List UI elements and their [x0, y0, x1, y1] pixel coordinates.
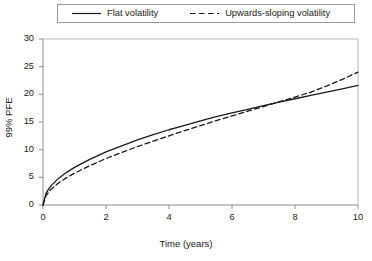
series-line-upwards-sloping-volatility [43, 72, 358, 205]
y-axis-title: 99% PFE [3, 88, 14, 148]
x-axis-title: Time (years) [0, 238, 372, 249]
x-tick-label-8: 8 [289, 213, 301, 222]
chart-figure: Flat volatility Upwards-sloping volatili… [0, 0, 372, 261]
x-tick-label-4: 4 [163, 213, 175, 222]
y-tick-label-25: 25 [8, 62, 34, 71]
x-tick-label-2: 2 [100, 213, 112, 222]
y-axis-ticks [39, 39, 43, 205]
data-series-group [43, 72, 358, 205]
x-tick-label-6: 6 [226, 213, 238, 222]
y-tick-label-5: 5 [8, 172, 34, 181]
y-tick-label-30: 30 [8, 34, 34, 43]
x-axis-ticks [43, 205, 358, 209]
series-line-flat-volatility [43, 85, 358, 205]
plot-area [0, 0, 372, 261]
x-tick-label-0: 0 [37, 213, 49, 222]
axis-frame [43, 39, 358, 205]
x-tick-label-10: 10 [350, 213, 366, 222]
y-tick-label-0: 0 [8, 200, 34, 209]
